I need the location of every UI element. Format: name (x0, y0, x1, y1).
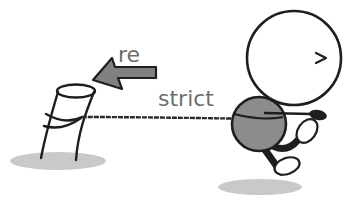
rope-label: strict (158, 86, 214, 111)
illustration-canvas: re strict (0, 0, 348, 206)
stump-icon (41, 85, 95, 161)
character-shadow (218, 179, 302, 195)
character (232, 11, 341, 178)
stump-shadow (10, 152, 106, 170)
body (232, 97, 286, 151)
arm (264, 113, 312, 114)
arrow-label: re (118, 42, 140, 67)
front-foot (272, 154, 302, 178)
